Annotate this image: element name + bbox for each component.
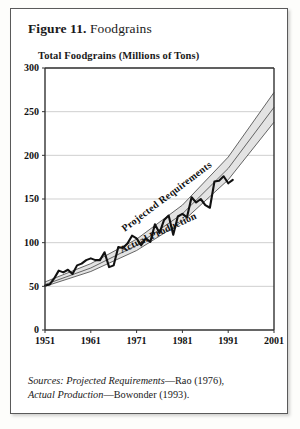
y-tick-100: 100 — [24, 237, 39, 248]
y-tick-250: 250 — [24, 106, 39, 117]
y-tick-200: 200 — [24, 150, 39, 161]
y-tick-150: 150 — [24, 193, 39, 204]
source-note: Sources: Projected Requirements—Rao (197… — [28, 374, 278, 402]
chart-annotations: Projected RequirementsActual Production — [118, 159, 214, 255]
source-line-2: Actual Production—Bowonder (1993). — [28, 388, 278, 402]
source-line-1-rest: —Rao (1976), — [165, 375, 224, 386]
y-tick-50: 50 — [29, 281, 39, 292]
y-tick-0: 0 — [34, 324, 39, 335]
chart-gridlines — [45, 68, 274, 286]
figure-page: Figure 11. Foodgrains Total Foodgrains (… — [0, 0, 300, 429]
x-tick-1991: 1991 — [218, 335, 238, 346]
source-line-2-italic: Actual Production — [28, 389, 103, 400]
source-line-1-italic: Sources: Projected Requirements — [28, 375, 165, 386]
foodgrains-line-chart: 050100150200250300 195119611971198119912… — [11, 9, 289, 415]
projected-requirements-band — [45, 92, 274, 286]
x-axis-tick-labels: 195119611971198119912001 — [35, 330, 284, 346]
projected-requirements-lines — [45, 92, 274, 286]
y-tick-300: 300 — [24, 62, 39, 73]
chart-plot-area: 050100150200250300 195119611971198119912… — [11, 9, 289, 415]
x-tick-1981: 1981 — [172, 335, 192, 346]
source-line-2-rest: —Bowonder (1993). — [103, 389, 189, 400]
y-axis-tick-labels: 050100150200250300 — [24, 62, 45, 335]
source-line-1: Sources: Projected Requirements—Rao (197… — [28, 374, 278, 388]
figure-frame: Figure 11. Foodgrains Total Foodgrains (… — [10, 8, 288, 414]
x-tick-1961: 1961 — [81, 335, 101, 346]
x-tick-1951: 1951 — [35, 335, 55, 346]
x-tick-2001: 2001 — [264, 335, 284, 346]
x-tick-1971: 1971 — [127, 335, 147, 346]
